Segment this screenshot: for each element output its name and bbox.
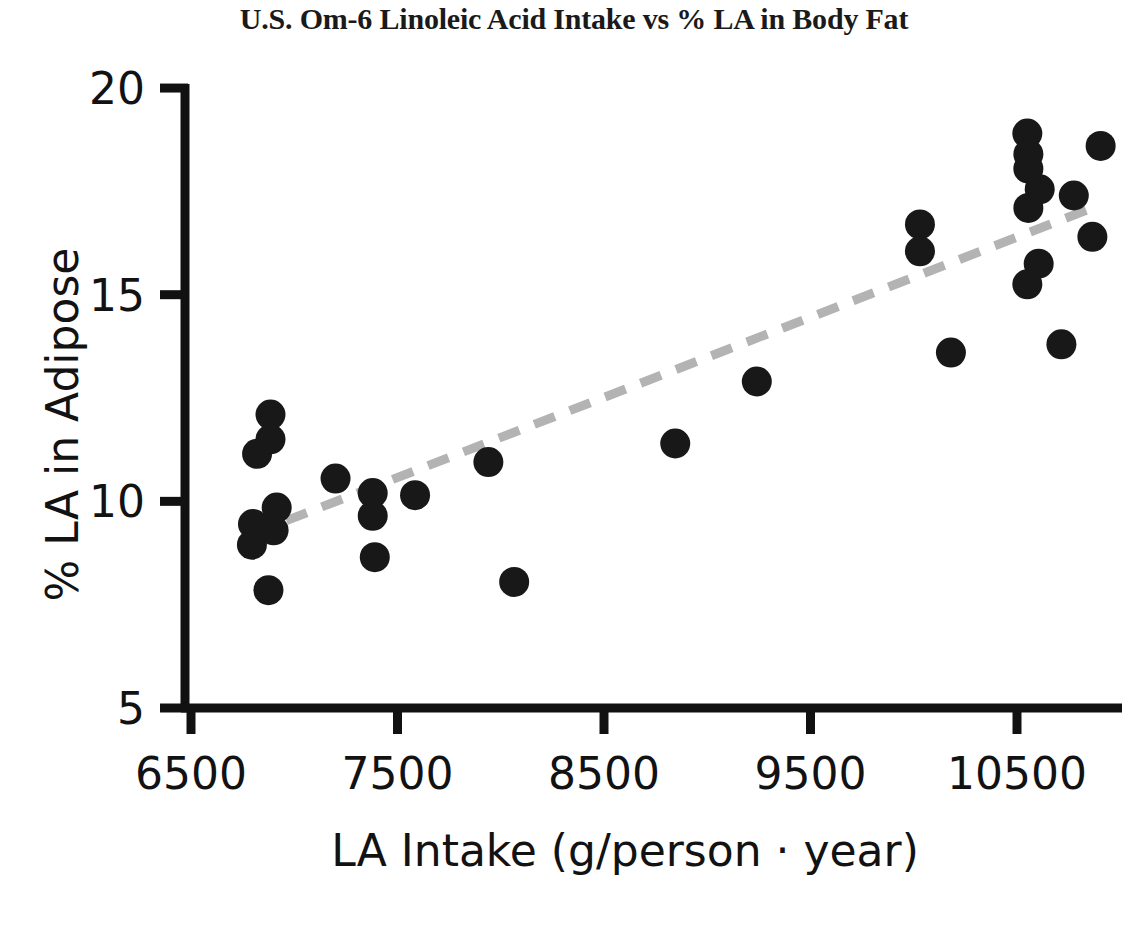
data-point-series bbox=[237, 119, 1116, 606]
data-point bbox=[253, 575, 283, 605]
data-point bbox=[936, 338, 966, 368]
data-point bbox=[259, 515, 289, 545]
data-point bbox=[360, 542, 390, 572]
x-axis-tick-label: 8500 bbox=[548, 748, 660, 799]
data-point bbox=[256, 424, 286, 454]
x-axis-tick-label: 10500 bbox=[947, 748, 1087, 799]
data-point bbox=[660, 428, 690, 458]
data-point bbox=[1086, 131, 1116, 161]
data-point bbox=[742, 366, 772, 396]
data-point bbox=[400, 480, 430, 510]
x-axis-tick-label: 7500 bbox=[342, 748, 454, 799]
data-point bbox=[321, 464, 351, 494]
y-axis-title: % LA in Adipose bbox=[37, 145, 88, 705]
x-axis-title: LA Intake (g/person · year) bbox=[120, 825, 1130, 876]
data-point bbox=[358, 501, 388, 531]
data-point bbox=[905, 236, 935, 266]
data-point bbox=[1012, 269, 1042, 299]
y-axis-tick-label: 20 bbox=[20, 63, 145, 114]
data-point bbox=[1046, 329, 1076, 359]
x-axis-tick-label: 6500 bbox=[135, 748, 247, 799]
data-point bbox=[1059, 181, 1089, 211]
data-point bbox=[473, 447, 503, 477]
chart-figure: U.S. Om-6 Linoleic Acid Intake vs % LA i… bbox=[0, 0, 1148, 929]
plot-area: 5101520 650075008500950010500 % LA in Ad… bbox=[0, 0, 1148, 929]
x-axis-tick-label: 9500 bbox=[755, 748, 867, 799]
data-point bbox=[1013, 193, 1043, 223]
data-point bbox=[905, 209, 935, 239]
data-point bbox=[1077, 222, 1107, 252]
data-point bbox=[499, 567, 529, 597]
